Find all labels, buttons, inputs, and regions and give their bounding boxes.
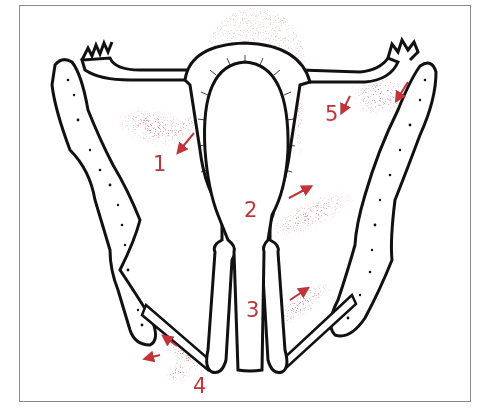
label-4: 4 [193, 376, 206, 397]
left-pelvic-bone [52, 60, 156, 345]
label-5: 5 [325, 104, 338, 125]
label-3: 3 [246, 300, 259, 321]
arrow-2 [289, 188, 308, 198]
right-fallopian-tube [300, 58, 398, 82]
arrow-4b [148, 355, 160, 358]
label-1: 1 [153, 154, 166, 175]
left-fallopian-tube [82, 58, 200, 80]
label-2: 2 [244, 200, 257, 221]
arrow-5a [343, 96, 350, 110]
anatomy-diagram [0, 0, 483, 417]
right-fimbria [388, 40, 418, 60]
